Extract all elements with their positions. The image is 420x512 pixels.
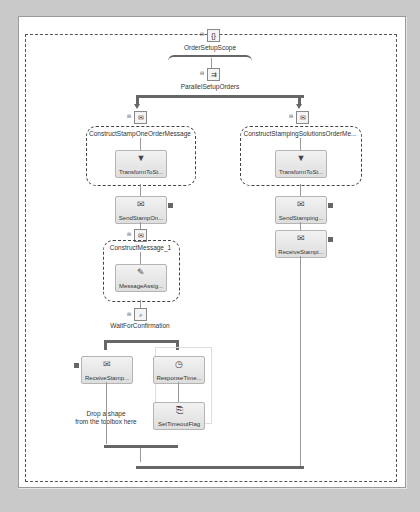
send-icon: ✉ [276, 199, 326, 209]
scope-label: OrderSetupScope [165, 44, 255, 51]
send-icon: ✉ [116, 199, 166, 209]
collapse-icon[interactable]: ⊟ [127, 231, 131, 237]
port-connector[interactable] [328, 203, 333, 208]
listen-icon[interactable]: ⌕ [134, 308, 147, 321]
port-connector[interactable] [74, 363, 79, 368]
expression-icon: ⎘ [154, 405, 204, 416]
send-shape[interactable]: ✉SendStamping... [275, 196, 327, 224]
receive-shape[interactable]: ✉ReceiveStamp... [81, 356, 133, 384]
port-connector[interactable] [168, 203, 173, 208]
receive-shape[interactable]: ✉ReceiveStampi... [275, 230, 327, 258]
collapse-icon[interactable]: ⊟ [289, 113, 293, 119]
parallel-bar-top [136, 95, 304, 98]
transform-shape[interactable]: ▼TransformToSt... [115, 150, 167, 178]
transform-icon: ▼ [276, 153, 326, 163]
parallel-label: ParallelSetupOrders [160, 83, 260, 90]
port-connector[interactable] [328, 237, 333, 242]
collapse-icon[interactable]: ⊟ [200, 31, 204, 37]
delay-shape[interactable]: ◷ResponseTime... [153, 356, 205, 384]
send-shape[interactable]: ✉SendStampOn... [115, 196, 167, 224]
construct-icon[interactable]: ✉ [134, 111, 147, 124]
receive-icon: ✉ [276, 233, 326, 243]
transform-shape[interactable]: ▼TransformToSt... [275, 150, 327, 178]
construct-label: ConstructStampOneOrderMessage [86, 130, 194, 137]
listen-label: WaitForConfirmation [100, 322, 180, 329]
collapse-icon[interactable]: ⊟ [127, 311, 131, 317]
construct-label: ConstructMessage_1 [103, 244, 178, 251]
clock-icon: ◷ [154, 359, 204, 369]
scope-brace [168, 55, 252, 62]
transform-icon: ▼ [116, 153, 166, 163]
collapse-icon[interactable]: ⊟ [127, 113, 131, 119]
parallel-bar-bottom [136, 466, 304, 469]
collapse-icon[interactable]: ⊟ [200, 70, 204, 76]
expression-shape[interactable]: ⎘SetTimeoutFlag [153, 402, 205, 430]
parallel-icon[interactable]: ⇉ [207, 68, 220, 81]
assign-icon: ✎ [116, 267, 166, 277]
construct-icon[interactable]: ✉ [296, 111, 309, 124]
construct-label: ConstructStampingSolutionsOrderMe... [240, 130, 360, 137]
message-assignment-shape[interactable]: ✎MessageAssig... [115, 264, 167, 292]
receive-icon: ✉ [82, 359, 132, 369]
scope-icon[interactable]: {} [207, 29, 220, 42]
